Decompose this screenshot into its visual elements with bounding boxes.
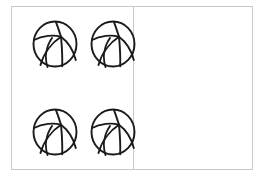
left-group-panel (11, 6, 133, 170)
illustration-canvas (0, 0, 258, 181)
basketball-icon (90, 20, 136, 68)
basketball-icon (90, 108, 136, 156)
basketball-icon (32, 108, 78, 156)
right-group-panel (134, 6, 253, 170)
basketball-icon (32, 20, 78, 68)
